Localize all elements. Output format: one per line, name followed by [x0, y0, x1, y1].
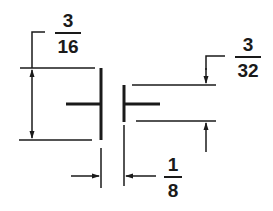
denominator: 32: [235, 61, 261, 80]
leader-3-16: [32, 32, 45, 68]
dimension-label-1-8: 1 8: [164, 155, 182, 200]
dimension-label-3-32: 3 32: [235, 35, 261, 80]
dimension-label-3-16: 3 16: [55, 11, 81, 56]
leader-3-32: [206, 56, 225, 70]
numerator: 3: [235, 35, 261, 54]
denominator: 8: [164, 181, 182, 200]
numerator: 1: [164, 155, 182, 174]
fraction-bar: [235, 56, 261, 58]
denominator: 16: [55, 37, 81, 56]
dimension-drawing: [0, 0, 273, 211]
numerator: 3: [55, 11, 81, 30]
fraction-bar: [55, 32, 81, 34]
fraction-bar: [164, 176, 182, 178]
